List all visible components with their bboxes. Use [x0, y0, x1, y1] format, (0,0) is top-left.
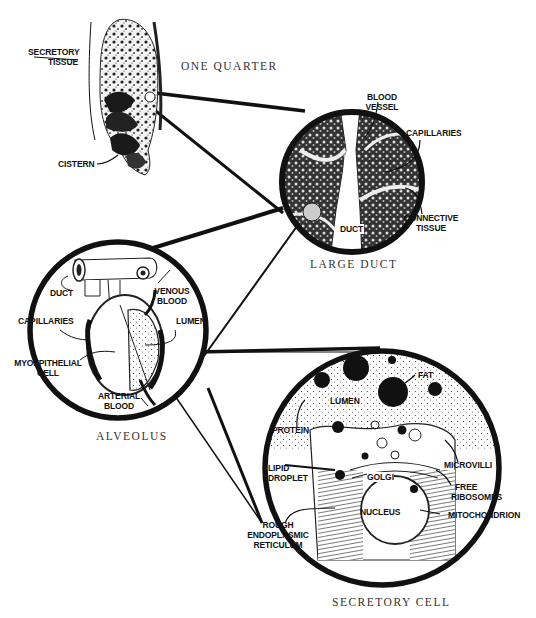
label-venous-blood: VENOUS BLOOD: [152, 286, 192, 306]
label-lumen-cell: LUMEN: [330, 396, 360, 406]
udder-quarter-illustration: [89, 19, 161, 175]
label-myoepithelial-cell: MYOEPITHELIAL CELL: [12, 358, 84, 378]
label-lumen-alveolus: LUMEN: [176, 316, 206, 326]
label-capillaries-duct: CAPILLARIES: [406, 128, 462, 138]
label-secretory-tissue: SECRETORY TISSUE: [28, 47, 78, 67]
label-nucleus: NUCLEUS: [360, 507, 400, 517]
mammary-gland-diagram: ONE QUARTER LARGE DUCT ALVEOLUS SECRETOR…: [0, 0, 536, 618]
label-protein: PROTEIN: [272, 425, 309, 435]
label-microvilli: MICROVILLI: [444, 460, 492, 470]
label-cistern: CISTERN: [58, 159, 95, 169]
panel-title-one-quarter: ONE QUARTER: [181, 60, 278, 72]
label-connective-tissue: CONNECTIVE TISSUE: [403, 213, 459, 233]
label-golgi: GOLGI: [367, 472, 394, 482]
label-capillaries-alveolus: CAPILLARIES: [18, 316, 74, 326]
label-blood-vessel: BLOOD VESSEL: [362, 92, 402, 112]
label-mitochondrion: MITOCHONDRION: [448, 510, 520, 520]
panel-title-secretory-cell: SECRETORY CELL: [332, 596, 450, 608]
label-arterial-blood: ARTERIAL BLOOD: [96, 391, 142, 411]
panel-title-large-duct: LARGE DUCT: [310, 258, 398, 270]
panel-title-alveolus: ALVEOLUS: [96, 430, 168, 442]
large-duct-illustration: [282, 102, 422, 260]
label-fat: FAT: [418, 370, 433, 380]
label-free-ribosomes: FREE RIBOSOMES: [451, 482, 502, 502]
label-rough-endoplasmic-reticulum: ROUGH ENDOPLASMIC RETICULUM: [246, 520, 310, 550]
label-duct-alveolus: DUCT: [50, 288, 73, 298]
label-lipid-droplet: LIPID DROPLET: [268, 463, 308, 483]
label-duct-large: DUCT: [339, 224, 364, 234]
